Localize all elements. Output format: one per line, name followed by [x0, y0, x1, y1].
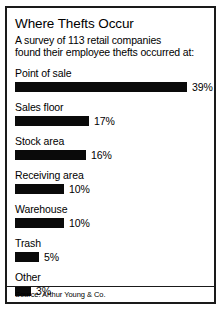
infographic-panel: Where Thefts Occur A survey of 113 retai…: [5, 6, 216, 304]
bar-row: 39%: [15, 81, 206, 93]
bar-label: Other: [15, 271, 206, 283]
bar-fill: [15, 116, 89, 126]
infographic-content: Where Thefts Occur A survey of 113 retai…: [7, 8, 214, 302]
bar-chart: Point of sale 39% Sales floor 17% Stock …: [15, 67, 206, 304]
bar-label: Trash: [15, 237, 206, 249]
bar-fill: [15, 218, 64, 228]
bar-label: Sales floor: [15, 101, 206, 113]
bar-fill: [15, 252, 39, 262]
bar-group-other: Other 3%: [15, 271, 206, 304]
divider: [7, 286, 214, 287]
bar-value: 16%: [91, 150, 112, 160]
bar-group-trash: Trash 5%: [15, 237, 206, 271]
subtitle-block: A survey of 113 retail companies found t…: [15, 34, 206, 58]
bar-row: 10%: [15, 217, 206, 229]
bar-value: 10%: [69, 184, 90, 194]
subtitle-line-2: found their employee thefts occurred at:: [15, 46, 206, 58]
bar-row: 10%: [15, 183, 206, 195]
bar-group-sales-floor: Sales floor 17%: [15, 101, 206, 135]
bar-label: Receiving area: [15, 169, 206, 181]
source-note: Source: Arthur Young & Co.: [15, 290, 105, 299]
bar-group-stock-area: Stock area 16%: [15, 135, 206, 169]
bar-group-receiving-area: Receiving area 10%: [15, 169, 206, 203]
bar-value: 39%: [192, 82, 213, 92]
bar-fill: [15, 150, 86, 160]
bar-group-point-of-sale: Point of sale 39%: [15, 67, 206, 101]
bar-fill: [15, 184, 64, 194]
page-title: Where Thefts Occur: [15, 16, 206, 31]
bar-row: 17%: [15, 115, 206, 127]
bar-group-warehouse: Warehouse 10%: [15, 203, 206, 237]
bar-label: Point of sale: [15, 67, 206, 79]
bar-row: 5%: [15, 251, 206, 263]
bar-value: 17%: [94, 116, 115, 126]
bar-label: Stock area: [15, 135, 206, 147]
bar-fill: [15, 82, 187, 92]
bar-value: 5%: [44, 252, 59, 262]
bar-value: 10%: [69, 218, 90, 228]
bar-row: 16%: [15, 149, 206, 161]
subtitle-line-1: A survey of 113 retail companies: [15, 34, 206, 46]
bar-label: Warehouse: [15, 203, 206, 215]
